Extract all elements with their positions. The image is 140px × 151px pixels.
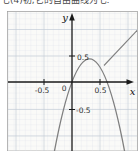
x-axis-label: x: [130, 86, 136, 97]
screenshot-root: 七(4)初,它的自由曲线为七:: [0, 0, 140, 151]
parabola-graph: y x 0 -0.5 0.5 0.5 -0.5: [0, 0, 140, 151]
x-tick-label-neg: -0.5: [35, 86, 50, 95]
origin-label: 0: [62, 84, 67, 93]
y-axis-label: y: [61, 12, 68, 23]
y-tick-label-pos: 0.5: [77, 53, 89, 62]
x-tick-label-pos: 0.5: [95, 86, 107, 95]
y-tick-label-neg: -0.5: [76, 106, 91, 115]
